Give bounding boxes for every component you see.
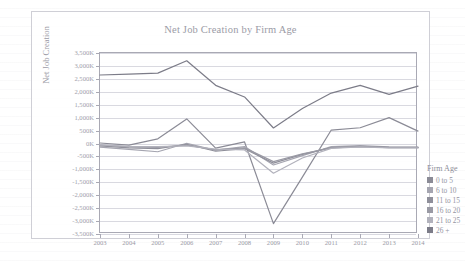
y-axis-title: Net Job Creation xyxy=(41,10,51,100)
legend-title: Firm Age xyxy=(427,164,465,173)
legend: Firm Age 0 to 56 to 1011 to 1516 to 2021… xyxy=(427,164,465,235)
y-tick-label: -1,500K xyxy=(60,178,94,185)
y-tick-label: 0K xyxy=(60,140,94,147)
x-tick-mark xyxy=(158,234,159,238)
x-tick-label: 2014 xyxy=(411,239,424,246)
x-tick-label: 2009 xyxy=(267,239,280,246)
legend-swatch-icon xyxy=(427,197,433,203)
legend-item[interactable]: 0 to 5 xyxy=(427,175,465,185)
legend-item[interactable]: 6 to 10 xyxy=(427,185,465,195)
y-tick-label: -3,500K xyxy=(60,230,94,237)
legend-items: 0 to 56 to 1011 to 1516 to 2021 to 2526 … xyxy=(427,175,465,235)
y-tick-label: -1,000K xyxy=(60,165,94,172)
x-tick-label: 2007 xyxy=(209,239,222,246)
legend-swatch-icon xyxy=(427,217,433,223)
x-tick-label: 2005 xyxy=(151,239,164,246)
y-tick-label: 2,000K xyxy=(60,88,94,95)
x-tick-mark xyxy=(100,234,101,238)
series-lines xyxy=(100,53,418,234)
x-tick-label: 2006 xyxy=(180,239,193,246)
x-tick-label: 2003 xyxy=(93,239,106,246)
x-tick-label: 2008 xyxy=(238,239,251,246)
x-tick-mark xyxy=(273,234,274,238)
x-tick-mark xyxy=(245,234,246,238)
legend-item[interactable]: 21 to 25 xyxy=(427,215,465,225)
x-tick-mark xyxy=(331,234,332,238)
x-tick-mark xyxy=(389,234,390,238)
x-tick-mark xyxy=(129,234,130,238)
y-tick-label: 2,500K xyxy=(60,75,94,82)
y-tick-label: 1,000K xyxy=(60,114,94,121)
legend-item[interactable]: 11 to 15 xyxy=(427,195,465,205)
legend-item[interactable]: 16 to 20 xyxy=(427,205,465,215)
x-tick-mark xyxy=(360,234,361,238)
gridline xyxy=(100,234,416,235)
y-tick-label: 1,500K xyxy=(60,101,94,108)
y-tick-label: 500K xyxy=(60,127,94,134)
series-line xyxy=(100,61,418,128)
x-tick-mark xyxy=(187,234,188,238)
plot-area: 3,500K3,000K2,500K2,000K1,500K1,000K500K… xyxy=(99,52,417,233)
x-tick-mark xyxy=(302,234,303,238)
series-line xyxy=(100,118,418,224)
y-tick-label: -2,500K xyxy=(60,204,94,211)
x-tick-label: 2010 xyxy=(296,239,309,246)
x-tick-label: 2004 xyxy=(122,239,135,246)
chart-title: Net Job Creation by Firm Age xyxy=(32,24,429,35)
legend-swatch-icon xyxy=(427,187,433,193)
legend-swatch-icon xyxy=(427,177,433,183)
x-tick-mark xyxy=(216,234,217,238)
legend-item-label: 21 to 25 xyxy=(436,216,460,225)
y-tick-label: 3,000K xyxy=(60,62,94,69)
legend-item[interactable]: 26 + xyxy=(427,225,465,235)
legend-item-label: 0 to 5 xyxy=(436,176,453,185)
series-line xyxy=(100,145,418,173)
legend-swatch-icon xyxy=(427,207,433,213)
figure-frame: Net Job Creation by Firm Age Net Job Cre… xyxy=(31,11,430,239)
x-tick-label: 2011 xyxy=(325,239,338,246)
y-tick-label: -500K xyxy=(60,152,94,159)
legend-swatch-icon xyxy=(427,227,433,233)
y-tick-label: -2,000K xyxy=(60,191,94,198)
legend-item-label: 6 to 10 xyxy=(436,186,457,195)
y-tick-label: -3,000K xyxy=(60,217,94,224)
x-tick-mark xyxy=(418,234,419,238)
legend-item-label: 11 to 15 xyxy=(436,196,460,205)
x-tick-label: 2012 xyxy=(354,239,367,246)
x-tick-label: 2013 xyxy=(382,239,395,246)
legend-item-label: 26 + xyxy=(436,226,449,235)
y-tick-label: 3,500K xyxy=(60,49,94,56)
legend-item-label: 16 to 20 xyxy=(436,206,460,215)
